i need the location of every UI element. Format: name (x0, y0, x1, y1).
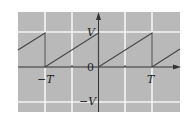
label-neg-t: −T (37, 73, 55, 86)
sawtooth-diagram: V −V 0 −T T (0, 0, 191, 122)
label-neg-v: −V (79, 95, 97, 108)
label-v: V (87, 26, 96, 39)
label-origin: 0 (87, 61, 94, 74)
